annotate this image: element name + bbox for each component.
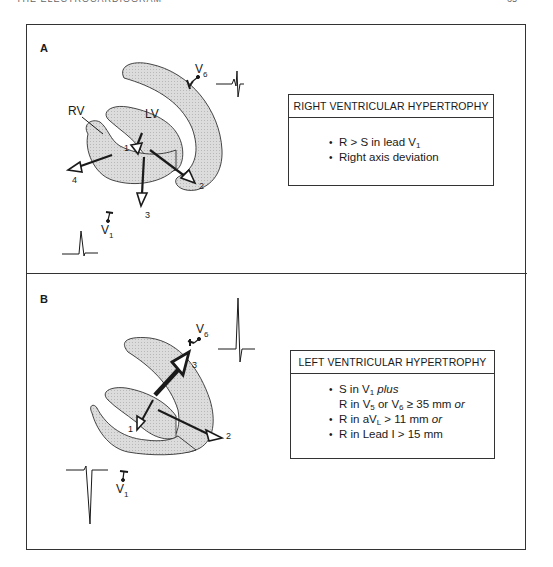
v6-electrode-b — [188, 337, 201, 346]
rvh-criteria-box: RIGHT VENTRICULAR HYPERTROPHY R > S in l… — [288, 94, 494, 186]
heart-diagrams: RV LV 1 2 3 4 — [0, 0, 553, 567]
lv-label: LV — [145, 107, 159, 121]
v1-electrode-a — [106, 212, 113, 223]
v6-sub-b: 6 — [204, 330, 209, 339]
v6-label-b: V — [196, 322, 204, 336]
lvh-title: LEFT VENTRICULAR HYPERTROPHY — [291, 351, 494, 374]
svg-text:2: 2 — [199, 181, 204, 191]
v1-electrode-b — [120, 471, 128, 482]
rvh-title: RIGHT VENTRICULAR HYPERTROPHY — [289, 95, 493, 118]
svg-text:3: 3 — [145, 210, 150, 220]
rvh-criterion: R > S in lead V1 — [329, 135, 493, 150]
ecg-v6-a — [216, 71, 244, 97]
ecg-v1-b — [66, 466, 108, 524]
v6-label-a: V — [195, 62, 203, 76]
v1-sub-b: 1 — [124, 490, 129, 499]
svg-text:1: 1 — [124, 143, 129, 153]
panel-b-heart — [91, 338, 214, 455]
rvh-criterion: Right axis deviation — [329, 150, 493, 165]
lvh-criteria-list: S in V1 plus R in V5 or V6 ≥ 35 mm or R … — [291, 374, 494, 442]
rvh-criteria-list: R > S in lead V1 Right axis deviation — [289, 118, 493, 165]
v1-label-b: V — [116, 482, 124, 496]
panel-a-heart — [86, 63, 222, 191]
rv-label: RV — [68, 104, 84, 118]
lvh-criterion: R in Lead I > 15 mm — [329, 427, 494, 442]
svg-text:3: 3 — [192, 360, 197, 370]
ecg-v6-b — [218, 298, 255, 362]
v6-sub-a: 6 — [203, 70, 208, 79]
lvh-criterion: R in aVL > 11 mm or — [329, 412, 494, 427]
svg-text:4: 4 — [72, 175, 77, 185]
svg-text:2: 2 — [226, 431, 231, 441]
v1-sub-a: 1 — [109, 231, 114, 240]
lvh-criterion: S in V1 plus — [329, 382, 494, 397]
ecg-v1-a — [62, 231, 98, 256]
lvh-criteria-box: LEFT VENTRICULAR HYPERTROPHY S in V1 plu… — [290, 350, 495, 459]
lvh-criterion-cont: R in V5 or V6 ≥ 35 mm or — [329, 397, 494, 412]
v1-label-a: V — [101, 223, 109, 237]
svg-text:1: 1 — [128, 424, 133, 434]
